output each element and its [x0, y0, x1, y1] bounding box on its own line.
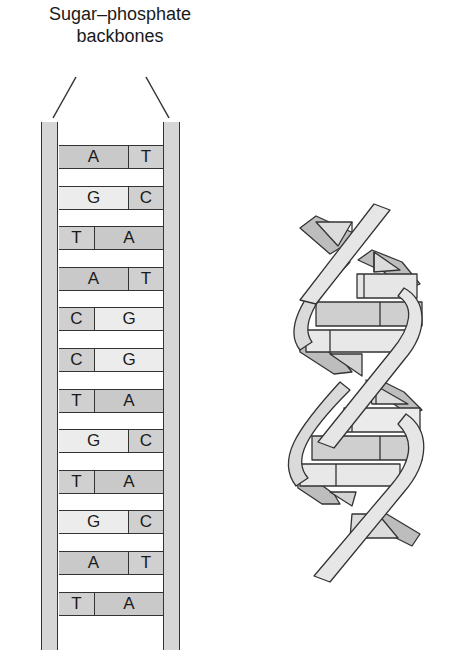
helix-rung: [300, 464, 400, 486]
helix-rung: [316, 302, 422, 326]
helix-rung: [306, 330, 406, 352]
double-helix: [0, 0, 459, 667]
